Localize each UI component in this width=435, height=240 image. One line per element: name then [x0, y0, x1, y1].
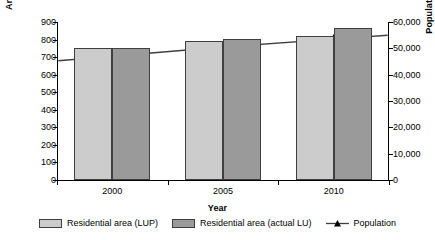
- light-gray-swatch-icon: [39, 219, 62, 228]
- x-axis-tick: [57, 181, 58, 185]
- x-axis-tick-label-2000: 2000: [82, 187, 142, 196]
- bar-2010-lup: [296, 36, 334, 180]
- y-axis-right-tick: [389, 154, 393, 155]
- chart-figure: Area (ha) Population (Person) Year 01002…: [0, 0, 435, 240]
- y-axis-right-title: Population (Person): [424, 0, 434, 50]
- legend-item-lup: Residential area (LUP): [39, 218, 158, 228]
- x-axis-tick: [278, 181, 279, 185]
- legend-label-actual-lu: Residential area (actual LU): [200, 218, 312, 228]
- x-axis-tick-label-2010: 2010: [304, 187, 364, 196]
- y-axis-left-title: Area (ha): [4, 0, 14, 50]
- bar-2005-lup: [185, 41, 223, 180]
- y-axis-right-tick: [389, 75, 393, 76]
- plot-area: Population 2000: 47000Population 2005: 5…: [57, 22, 389, 180]
- bar-2005-actual-lu: [223, 39, 261, 180]
- y-axis-right-tick-label: 60,000: [393, 18, 421, 27]
- line-triangle-marker-icon: [326, 219, 349, 228]
- y-axis-right-tick: [389, 101, 393, 102]
- y-axis-right-tick-label: 20,000: [393, 123, 421, 132]
- x-axis-tick: [168, 181, 169, 185]
- bar-2000-actual-lu: [112, 48, 150, 180]
- y-axis-right-tick-label: 30,000: [393, 97, 421, 106]
- bar-2000-lup: [74, 48, 112, 180]
- x-axis-tick-label-2005: 2005: [193, 187, 253, 196]
- x-axis-tick: [389, 181, 390, 185]
- y-axis-right-tick-label: 0: [393, 176, 398, 185]
- y-axis-right-tick: [389, 127, 393, 128]
- legend-item-actual-lu: Residential area (actual LU): [172, 218, 312, 228]
- y-axis-right-tick-label: 50,000: [393, 44, 421, 53]
- dark-gray-swatch-icon: [172, 219, 195, 228]
- bar-2010-actual-lu: [334, 28, 372, 180]
- legend-label-lup: Residential area (LUP): [67, 218, 158, 228]
- x-axis-title: Year: [0, 203, 435, 213]
- y-axis-right-tick: [389, 22, 393, 23]
- legend-item-population: Population: [326, 218, 397, 228]
- chart-legend: Residential area (LUP) Residential area …: [0, 218, 435, 228]
- y-axis-right-tick-label: 10,000: [393, 150, 421, 159]
- legend-label-population: Population: [354, 218, 397, 228]
- y-axis-right-tick-label: 40,000: [393, 71, 421, 80]
- y-axis-right-tick: [389, 48, 393, 49]
